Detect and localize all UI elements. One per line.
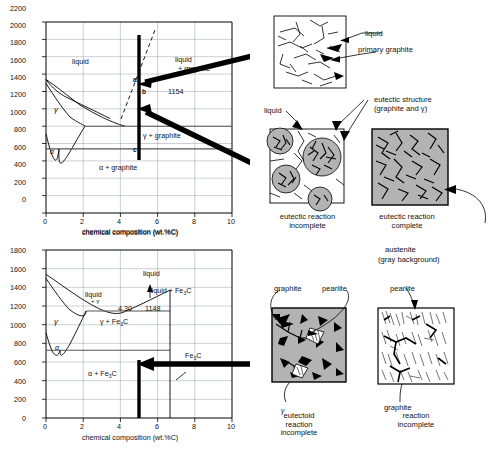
bottom-ytick-200: 200 bbox=[14, 396, 26, 404]
top-point-b: b bbox=[142, 88, 146, 95]
label-pearlite-eutectoid: pearlite bbox=[322, 285, 347, 294]
label-primary-graphite: primary graphite bbox=[358, 46, 413, 55]
top-xtick-0: 0 bbox=[43, 218, 47, 226]
bottom-ytick-600: 600 bbox=[14, 359, 26, 367]
bottom-label-alpha-fe3c: α + Fe3C bbox=[88, 370, 117, 380]
label-liquid-micro: liquid bbox=[365, 30, 383, 39]
micrograph-primary-graphite bbox=[250, 2, 495, 107]
bottom-x-ticks bbox=[46, 418, 232, 422]
bottom-ytick-1800: 1800 bbox=[10, 247, 26, 255]
bottom-xtick-2: 2 bbox=[80, 423, 84, 431]
label-liquid-eutectic: liquid bbox=[264, 107, 282, 116]
bottom-ytick-1400: 1400 bbox=[10, 284, 26, 292]
top-y-ticks bbox=[42, 22, 46, 213]
micrograph-reaction-incomplete-frame bbox=[378, 308, 454, 384]
bottom-x-axis-title: chemical composition (wt.%C) bbox=[82, 434, 178, 442]
caption-eutectic-complete: eutectic reaction complete bbox=[352, 213, 462, 230]
top-ytick-1000: 1000 bbox=[10, 109, 26, 117]
caption-eutectoid-incomplete: eutectoid reaction incomplete bbox=[258, 412, 340, 438]
top-label-liquid-graphite-2: + graphite bbox=[178, 65, 210, 73]
bottom-y-ticks bbox=[42, 250, 46, 418]
bottom-xtick-6: 6 bbox=[155, 423, 159, 431]
top-ytick-0: 0 bbox=[22, 196, 26, 204]
top-label-gamma: γ bbox=[54, 106, 58, 115]
bottom-label-liquid: liquid bbox=[143, 270, 160, 278]
top-label-alpha-graphite: α + graphite bbox=[99, 164, 137, 172]
top-xtick-4: 4 bbox=[117, 218, 121, 226]
top-xtick-8: 8 bbox=[192, 218, 196, 226]
label-eutectic-structure-2: (graphite and γ) bbox=[374, 105, 427, 114]
caption-reaction-incomplete: reaction incomplete bbox=[372, 412, 460, 429]
caption-eutectic-incomplete: eutectic reaction incomplete bbox=[255, 213, 360, 230]
top-ytick-2000: 2000 bbox=[10, 22, 26, 30]
top-label-liquid: liquid bbox=[72, 58, 89, 66]
top-point-c: c bbox=[133, 146, 137, 153]
bottom-ytick-0: 0 bbox=[22, 415, 26, 423]
top-ytick-1800: 1800 bbox=[10, 39, 26, 47]
top-xtick-10: 10 bbox=[227, 218, 235, 226]
bottom-label-gamma-fe3c: γ + Fe3C bbox=[100, 318, 128, 328]
bottom-label-gamma: γ bbox=[54, 318, 58, 327]
bottom-ytick-1200: 1200 bbox=[10, 303, 26, 311]
bottom-ytick-1000: 1000 bbox=[10, 322, 26, 330]
bottom-xtick-4: 4 bbox=[117, 423, 121, 431]
micrograph-primary-graphite-frame bbox=[274, 16, 346, 88]
bottom-ytick-400: 400 bbox=[14, 378, 26, 386]
top-phase-diagram bbox=[0, 0, 250, 228]
bottom-label-liquid-fe3c: liquid + Fe3C bbox=[150, 287, 191, 297]
top-xtick-6: 6 bbox=[155, 218, 159, 226]
top-label-1154: 1154 bbox=[168, 88, 183, 96]
label-pearlite-reaction: pearlite bbox=[390, 285, 415, 294]
bottom-ytick-800: 800 bbox=[14, 340, 26, 348]
label-austenite-2: (gray background) bbox=[378, 256, 440, 265]
top-point-a: a bbox=[133, 76, 137, 83]
top-xtick-2: 2 bbox=[80, 218, 84, 226]
top-x-axis-title-dup: chemical composition (wt.%C) bbox=[82, 228, 178, 236]
top-x-ticks bbox=[46, 213, 232, 217]
bottom-phase-diagram bbox=[0, 228, 250, 450]
bottom-label-430: 4.30 bbox=[118, 305, 132, 313]
figure-root: 0 200 400 600 800 1000 1200 1400 1600 18… bbox=[0, 0, 495, 450]
bottom-label-liquid-gamma-2: + γ bbox=[91, 298, 99, 305]
top-ytick-1400: 1400 bbox=[10, 74, 26, 82]
top-ytick-200: 200 bbox=[14, 179, 26, 187]
bottom-label-alpha: α bbox=[55, 344, 59, 352]
bottom-xtick-8: 8 bbox=[192, 423, 196, 431]
top-label-alpha: α bbox=[50, 148, 54, 156]
label-graphite-eutectoid: graphite bbox=[274, 285, 301, 294]
bottom-ytick-1600: 1600 bbox=[10, 266, 26, 274]
top-ytick-600: 600 bbox=[14, 144, 26, 152]
top-ytick-400: 400 bbox=[14, 161, 26, 169]
top-ytick-1200: 1200 bbox=[10, 91, 26, 99]
label-austenite-1: austenite bbox=[385, 246, 416, 255]
top-phase-boundaries bbox=[46, 80, 125, 164]
top-label-liquid-graphite-1: liquid bbox=[175, 56, 192, 64]
top-ytick-2200: 2200 bbox=[10, 5, 26, 13]
top-ytick-800: 800 bbox=[14, 126, 26, 134]
top-label-gamma-graphite: γ + graphite bbox=[143, 132, 181, 140]
micrographs-eutectic-row bbox=[250, 95, 495, 225]
bottom-label-1148: 1148 bbox=[145, 305, 160, 313]
bottom-xtick-10: 10 bbox=[227, 423, 235, 431]
bottom-label-fe3c: Fe3C bbox=[185, 352, 201, 362]
bottom-xtick-0: 0 bbox=[43, 423, 47, 431]
top-ytick-1600: 1600 bbox=[10, 57, 26, 65]
